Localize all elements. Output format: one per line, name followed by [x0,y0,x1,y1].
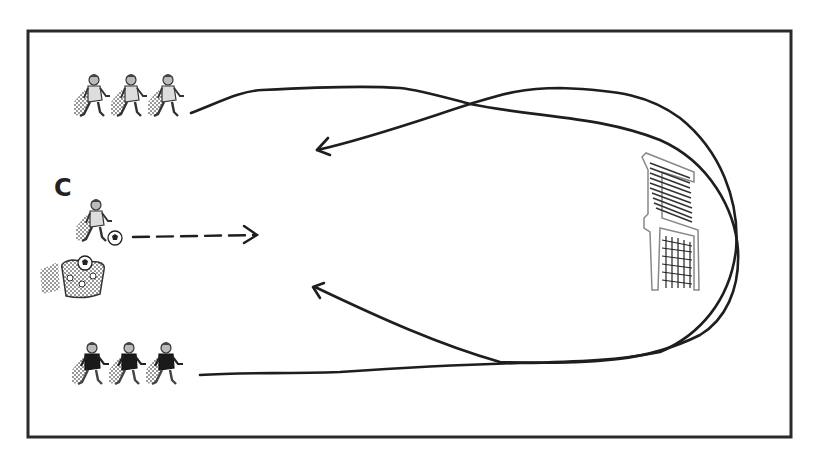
coach-label: C [54,176,72,200]
ball-icon [108,231,122,245]
field-frame [28,31,791,437]
drill-diagram [0,0,816,458]
